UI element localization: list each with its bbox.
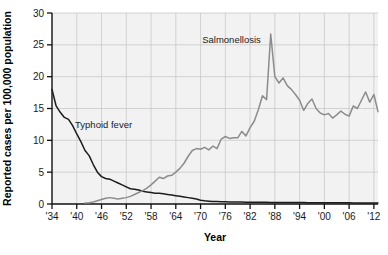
x-tick-label: '34 [45, 211, 58, 222]
annotation-salmonellosis: Salmonellosis [202, 34, 261, 45]
y-tick-label: 15 [33, 103, 45, 114]
x-tick-label: '46 [95, 211, 108, 222]
x-tick-label: '52 [120, 211, 133, 222]
epidemiology-line-chart: 051015202530 '34'40'46'52'58'64'70'76'82… [0, 0, 388, 255]
y-tick-label: 30 [33, 8, 45, 19]
x-tick-label: '70 [194, 211, 207, 222]
x-tick-label: '58 [145, 211, 158, 222]
y-tick-label: 25 [33, 39, 45, 50]
x-tick-label: '76 [219, 211, 232, 222]
x-tick-label: '12 [367, 211, 380, 222]
x-tick-label: '40 [70, 211, 83, 222]
y-tick-label: 5 [38, 167, 44, 178]
x-tick-label: '64 [169, 211, 182, 222]
x-tick-label: '82 [244, 211, 257, 222]
y-tick-label: 20 [33, 71, 45, 82]
x-tick-label: '94 [293, 211, 306, 222]
x-tick-label: '06 [343, 211, 356, 222]
y-tick-label: 0 [38, 199, 44, 210]
x-tick-label: '88 [268, 211, 281, 222]
y-tick-label: 10 [33, 135, 45, 146]
y-axis-label: Reported cases per 100,000 population [1, 11, 13, 206]
x-axis-label: Year [204, 231, 226, 243]
annotation-typhoid-fever: Typhoid fever [75, 119, 132, 130]
x-tick-label: '00 [318, 211, 331, 222]
chart-container: 051015202530 '34'40'46'52'58'64'70'76'82… [0, 0, 388, 255]
